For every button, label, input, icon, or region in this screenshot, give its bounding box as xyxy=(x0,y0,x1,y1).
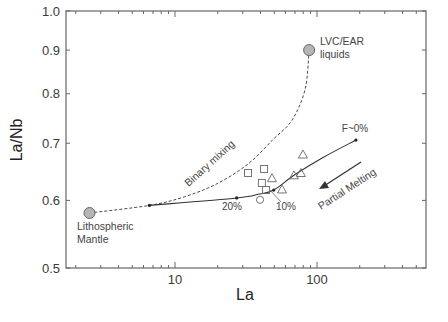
curve-node xyxy=(148,204,151,207)
y-tick-label: 0.8 xyxy=(42,86,60,101)
lm-label-line1: Lithospheric xyxy=(77,220,134,232)
curve-node xyxy=(235,196,238,199)
square-marker xyxy=(245,170,252,177)
data-points xyxy=(84,45,315,219)
curve-node xyxy=(272,188,275,191)
la-nb-chart: 0.50.60.70.80.91.010100 La La/Nb Binary … xyxy=(0,0,448,322)
square-marker xyxy=(258,179,265,186)
y-axis-title: La/Nb xyxy=(8,119,25,162)
y-tick-label: 0.6 xyxy=(42,193,60,208)
y-tick-label: 0.7 xyxy=(42,136,60,151)
x-tick-label: 100 xyxy=(306,272,328,287)
partial-melting-label: Partial Melting xyxy=(316,165,378,211)
curve-node xyxy=(354,138,357,141)
triangle-marker xyxy=(298,150,307,158)
circle-marker xyxy=(256,196,263,203)
lvc-ear-liquids-endmember xyxy=(304,45,315,56)
triangle-marker xyxy=(267,174,276,182)
y-tick-label: 0.9 xyxy=(42,43,60,58)
x-tick-label: 10 xyxy=(168,272,182,287)
lvc-label-line1: LVC/EAR xyxy=(320,35,365,47)
x-axis-title: La xyxy=(236,286,254,303)
pct-20-label: 20% xyxy=(222,201,242,212)
lithospheric-mantle-endmember xyxy=(84,207,95,218)
binary-mixing-label: Binary mixing xyxy=(182,137,237,188)
lm-label-line2: Mantle xyxy=(77,233,109,245)
arrowhead-icon xyxy=(319,181,329,189)
square-marker xyxy=(261,166,268,173)
y-tick-label: 1.0 xyxy=(42,4,60,19)
lvc-label-line2: liquids xyxy=(320,48,350,60)
f0-label: F~0% xyxy=(342,123,369,134)
chart-container: 0.50.60.70.80.91.010100 La La/Nb Binary … xyxy=(0,0,448,322)
pct-10-label: 10% xyxy=(276,201,296,212)
y-tick-label: 0.5 xyxy=(42,261,60,276)
model-curves xyxy=(90,50,358,213)
